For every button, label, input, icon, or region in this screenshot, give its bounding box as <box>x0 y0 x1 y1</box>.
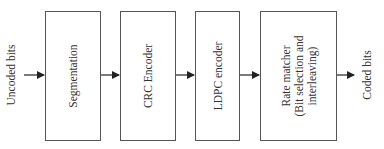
segmentation-label: Segmentation <box>67 44 80 107</box>
crc-encoder-label: CRC Encoder <box>142 44 155 108</box>
crc-encoder-block: CRC Encoder <box>120 11 176 141</box>
ldpc-encoder-label: LDPC encoder <box>211 42 224 111</box>
input-label: Uncoded bits <box>5 44 17 105</box>
rate-matcher-label: Rate matcher (Bit selection and interlea… <box>279 35 318 116</box>
block-diagram: Uncoded bits Segmentation CRC Encoder LD… <box>0 0 384 149</box>
ldpc-encoder-block: LDPC encoder <box>195 11 240 141</box>
output-label: Coded bits <box>361 50 373 100</box>
segmentation-block: Segmentation <box>45 11 101 141</box>
rate-matcher-block: Rate matcher (Bit selection and interlea… <box>260 11 337 141</box>
